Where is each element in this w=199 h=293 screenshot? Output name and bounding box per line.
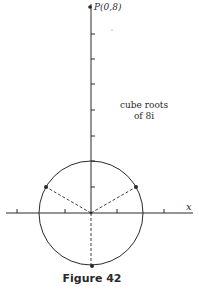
point-p: [88, 5, 92, 9]
dust-speck: [111, 29, 112, 30]
figure-caption: Figure 42: [0, 272, 184, 285]
point-p-label: P(0,8): [93, 2, 122, 12]
y-axis-ticks: [91, 34, 95, 187]
root-point-1: [134, 185, 138, 189]
root-point-2: [44, 185, 48, 189]
x-axis-label: x: [186, 201, 192, 212]
root-point-3: [90, 264, 94, 268]
cube-roots-diagram: P(0,8) cube roots of 8i x: [0, 0, 199, 293]
annotation-line-1: cube roots: [120, 100, 169, 110]
origin-dot: [90, 212, 93, 215]
annotation-line-2: of 8i: [134, 111, 154, 121]
